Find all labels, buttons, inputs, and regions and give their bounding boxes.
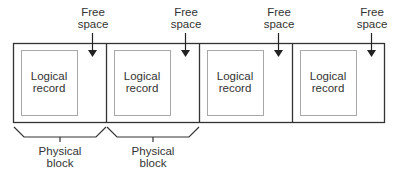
free-space-label-line2: space: [68, 18, 118, 30]
blocked-records-diagram: Free space Free space Free space Free sp…: [0, 0, 394, 180]
free-space-label-line1: Free: [254, 6, 304, 18]
logical-record-label-line2: record: [21, 82, 77, 94]
logical-record-label-4: Logical record: [300, 70, 356, 94]
free-space-arrow-3: [274, 33, 283, 57]
physical-block-brace-2: [107, 127, 199, 137]
logical-record-label-3: Logical record: [207, 70, 263, 94]
free-space-label-line1: Free: [68, 6, 118, 18]
physical-block-label-line1: Physical: [25, 145, 95, 157]
free-space-label-line1: Free: [161, 6, 211, 18]
logical-record-label-line1: Logical: [207, 70, 263, 82]
free-space-arrow-2: [181, 33, 190, 57]
logical-record-label-line2: record: [114, 82, 170, 94]
physical-block-label-line2: block: [118, 157, 188, 169]
logical-record-label-1: Logical record: [21, 70, 77, 94]
free-space-label-2: Free space: [161, 6, 211, 30]
logical-record-label-line2: record: [207, 82, 263, 94]
logical-record-label-line1: Logical: [21, 70, 77, 82]
logical-record-label-line1: Logical: [300, 70, 356, 82]
free-space-arrow-4: [367, 33, 376, 57]
physical-block-label-1: Physical block: [25, 145, 95, 169]
logical-record-label-line2: record: [300, 82, 356, 94]
free-space-arrow-1: [88, 33, 97, 57]
physical-block-label-line2: block: [25, 157, 95, 169]
physical-block-label-2: Physical block: [118, 145, 188, 169]
physical-block-label-line1: Physical: [118, 145, 188, 157]
logical-record-label-line1: Logical: [114, 70, 170, 82]
free-space-label-line2: space: [254, 18, 304, 30]
free-space-label-3: Free space: [254, 6, 304, 30]
free-space-label-4: Free space: [347, 6, 394, 30]
free-space-label-line2: space: [347, 18, 394, 30]
free-space-label-line1: Free: [347, 6, 394, 18]
free-space-label-line2: space: [161, 18, 211, 30]
physical-block-brace-1: [14, 127, 106, 137]
free-space-label-1: Free space: [68, 6, 118, 30]
logical-record-label-2: Logical record: [114, 70, 170, 94]
